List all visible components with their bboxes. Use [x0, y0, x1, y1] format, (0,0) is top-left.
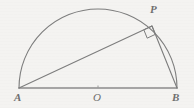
vertex-label-b: B — [172, 92, 179, 103]
semicircle-arc — [19, 9, 177, 88]
vertex-label-a: A — [14, 92, 21, 103]
geometry-figure: A O B P — [0, 0, 194, 108]
vertex-label-p: P — [150, 4, 157, 15]
segment-chord-pb — [152, 26, 177, 88]
vertex-label-o: O — [93, 92, 101, 103]
